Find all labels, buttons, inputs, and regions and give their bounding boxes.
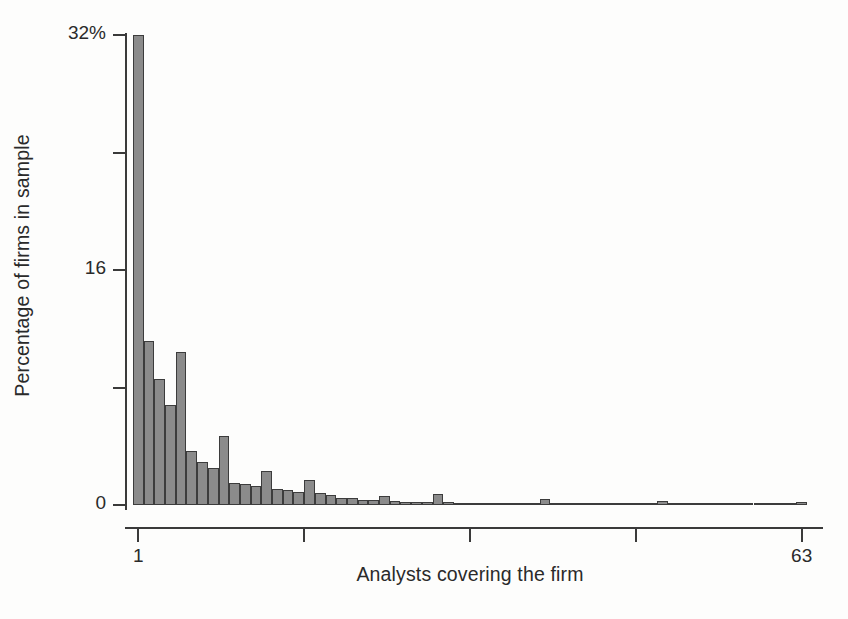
y-axis-tick <box>113 504 125 506</box>
histogram-bar <box>497 503 508 505</box>
histogram-bar <box>775 503 786 505</box>
histogram-bar <box>529 503 540 505</box>
histogram-bar <box>165 405 176 505</box>
histogram-bar <box>518 503 529 505</box>
histogram-bar <box>422 502 433 505</box>
x-axis-tick-label: 1 <box>133 545 144 567</box>
histogram-bar <box>368 500 379 505</box>
y-axis-line <box>125 33 127 510</box>
x-axis-label: Analysts covering the firm <box>120 563 820 586</box>
histogram-bar <box>614 503 625 505</box>
x-axis-tick <box>469 529 471 542</box>
histogram-bar <box>540 499 551 505</box>
x-axis-line <box>125 527 823 529</box>
histogram-bar <box>572 503 583 505</box>
histogram-bar <box>197 462 208 505</box>
histogram-bar <box>582 503 593 505</box>
histogram-bar <box>475 503 486 505</box>
y-axis-tick-label: 32% <box>44 22 106 44</box>
histogram-bar <box>229 483 240 505</box>
histogram-bar <box>347 498 358 505</box>
histogram-bar <box>272 489 283 505</box>
histogram-bar <box>764 503 775 505</box>
histogram-bar <box>336 498 347 505</box>
histogram-bar <box>786 503 797 505</box>
histogram-bar <box>721 503 732 505</box>
histogram-bar <box>465 503 476 505</box>
x-axis-tick <box>635 529 637 542</box>
x-axis-tick <box>303 529 305 542</box>
histogram-bar <box>379 496 390 505</box>
histogram-bar <box>326 495 337 505</box>
histogram-bar <box>625 503 636 505</box>
y-axis-tick <box>113 387 125 389</box>
histogram-bar <box>550 503 561 505</box>
y-axis-tick-label: 0 <box>44 492 106 514</box>
histogram-bar <box>208 468 219 505</box>
y-axis-tick <box>113 34 125 36</box>
x-axis-tick <box>801 529 803 542</box>
histogram-bar <box>390 501 401 505</box>
histogram-bar <box>796 502 807 505</box>
histogram-bar <box>411 502 422 505</box>
histogram-bar <box>668 503 679 505</box>
histogram-bar <box>144 341 155 506</box>
histogram-bar <box>176 352 187 505</box>
y-axis-tick <box>113 269 125 271</box>
histogram-bar <box>443 502 454 505</box>
histogram-bar <box>604 503 615 505</box>
histogram-bar <box>433 494 444 505</box>
histogram-bar <box>700 503 711 505</box>
histogram-bar <box>679 503 690 505</box>
histogram-figure: Percentage of firms in sample 01632% Ana… <box>0 0 848 619</box>
x-axis-tick-label: 63 <box>791 545 812 567</box>
y-axis-label: Percentage of firms in sample <box>11 134 34 396</box>
histogram-bar <box>647 503 658 505</box>
y-axis-tick-label: 16 <box>44 257 106 279</box>
histogram-bar <box>400 502 411 505</box>
histogram-bar <box>561 503 572 505</box>
histogram-bar <box>732 503 743 505</box>
x-axis-tick <box>137 529 139 542</box>
histogram-bar <box>507 503 518 505</box>
histogram-bar <box>636 503 647 505</box>
histogram-bar <box>657 501 668 505</box>
histogram-bar <box>133 35 144 505</box>
histogram-bar <box>358 500 369 505</box>
histogram-bar <box>754 503 765 505</box>
histogram-bar <box>154 379 165 505</box>
histogram-bar <box>593 503 604 505</box>
histogram-bar <box>261 471 272 505</box>
histogram-bar <box>240 484 251 505</box>
histogram-bar <box>251 486 262 505</box>
histogram-bar <box>711 503 722 505</box>
histogram-bar <box>304 480 315 505</box>
histogram-bar <box>454 503 465 505</box>
histogram-bar <box>293 492 304 505</box>
y-axis-tick-labels: 01632% <box>36 0 106 560</box>
histogram-bar <box>283 490 294 505</box>
y-axis-tick <box>113 152 125 154</box>
histogram-bar <box>486 503 497 505</box>
histogram-bar <box>186 451 197 505</box>
histogram-bar <box>689 503 700 505</box>
histogram-bars <box>133 35 807 505</box>
histogram-bar <box>219 436 230 505</box>
histogram-bar <box>743 503 754 505</box>
histogram-bar <box>315 493 326 505</box>
